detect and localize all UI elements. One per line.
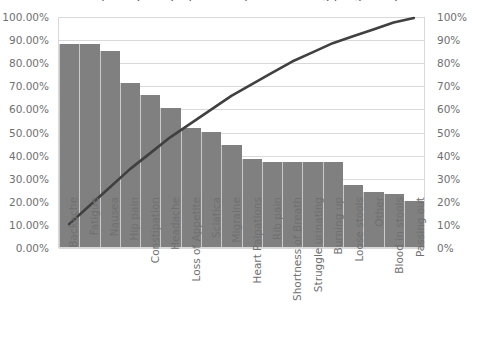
chart-title: Frequency of symptoms reported during pr… — [0, 0, 478, 1]
category-label-slot: Heart Palpations — [242, 250, 262, 363]
category-label-slot: Shortness of Breath — [282, 250, 302, 363]
left-axis-tick: 80.00% — [9, 58, 55, 68]
category-label-slot: Struggle urinating — [303, 250, 323, 363]
category-label-slot: Fatigue — [78, 250, 98, 363]
right-axis-tick: 80% — [430, 58, 460, 68]
left-axis-tick: 60.00% — [9, 104, 55, 114]
right-axis-tick: 40% — [430, 151, 460, 161]
category-label-slot: Blood in stools — [384, 250, 404, 363]
category-label-slot: Migraine — [221, 250, 241, 363]
category-label-slot: Burning up — [323, 250, 343, 363]
right-axis-tick: 30% — [430, 174, 460, 184]
category-label-slot: Other — [364, 250, 384, 363]
category-label-slot: Headache — [160, 250, 180, 363]
right-axis-tick-labels: 100%90%80%70%60%50%40%30%20%10%0% — [430, 17, 478, 248]
left-axis-tick: 40.00% — [9, 151, 55, 161]
right-axis-tick: 70% — [430, 81, 460, 91]
right-axis-tick: 10% — [430, 220, 460, 230]
category-label-slot: Constipation — [140, 250, 160, 363]
category-label-slot: Backache — [58, 250, 78, 363]
right-axis-tick: 100% — [430, 12, 467, 22]
left-axis-tick: 100.00% — [2, 12, 55, 22]
right-axis-tick: 0% — [430, 243, 454, 253]
right-axis-tick: 50% — [430, 128, 460, 138]
category-axis-labels: BackacheFatigueNauseaHip painConstipatio… — [58, 250, 425, 363]
category-label-slot: Rib pain — [262, 250, 282, 363]
right-axis-tick: 20% — [430, 197, 460, 207]
category-label-slot: Nausea — [99, 250, 119, 363]
left-axis-tick: 70.00% — [9, 81, 55, 91]
left-axis-tick: 0.00% — [16, 243, 55, 253]
left-axis-tick: 30.00% — [9, 174, 55, 184]
left-axis-tick: 20.00% — [9, 197, 55, 207]
category-label-slot: Loose stools — [343, 250, 363, 363]
category-label-slot: Hip pain — [119, 250, 139, 363]
right-axis-tick: 60% — [430, 104, 460, 114]
left-axis-tick: 50.00% — [9, 128, 55, 138]
right-axis-tick: 90% — [430, 35, 460, 45]
pareto-chart: Frequency of symptoms reported during pr… — [0, 0, 478, 363]
category-label-slot: Sciatica — [201, 250, 221, 363]
category-label-slot: Loss of Appetite — [180, 250, 200, 363]
category-label: Passing out — [415, 197, 426, 307]
left-axis-tick: 10.00% — [9, 220, 55, 230]
left-axis-tick: 90.00% — [9, 35, 55, 45]
left-axis-tick-labels: 100.00%90.00%80.00%70.00%60.00%50.00%40.… — [0, 17, 55, 248]
category-label-slot: Passing out — [405, 250, 425, 363]
